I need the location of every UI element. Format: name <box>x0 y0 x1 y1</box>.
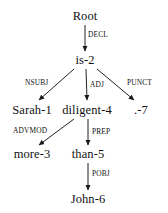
tree-node-more: more-3 <box>14 148 51 161</box>
edge-label-prep: PREP <box>92 128 110 136</box>
edge-label-adj: ADJ <box>90 81 104 89</box>
edge-label-advmod: ADVMOD <box>13 127 47 135</box>
edge-label-decl: DECL <box>88 31 108 39</box>
tree-node-is: is-2 <box>75 54 94 67</box>
dependency-tree-diagram: Rootis-2Sarah-1diligent-4.-7more-3than-5… <box>0 0 168 213</box>
edge-label-pobj: POBJ <box>92 170 110 178</box>
edge-label-nsubj: NSUBJ <box>25 79 48 87</box>
edge-label-punct: PUNCT <box>127 79 152 87</box>
tree-node-punct: .-7 <box>134 104 148 117</box>
tree-node-diligent: diligent-4 <box>62 104 112 117</box>
tree-node-sarah: Sarah-1 <box>12 104 52 117</box>
tree-node-john: John-6 <box>71 193 106 206</box>
edge-adj <box>86 69 87 100</box>
tree-node-than: than-5 <box>72 148 105 161</box>
tree-node-root: Root <box>73 10 98 23</box>
